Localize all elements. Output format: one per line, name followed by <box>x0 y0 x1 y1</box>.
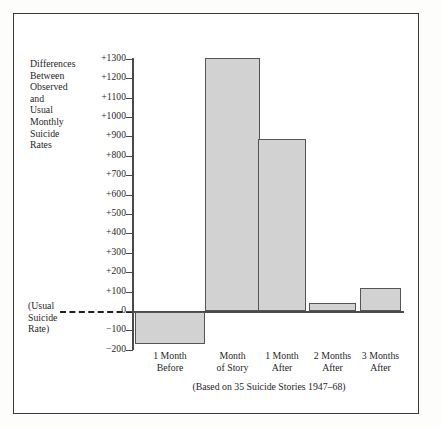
bar <box>135 312 205 344</box>
y-axis-tick-label-text: +1300 <box>72 53 126 63</box>
x-axis-category-label-line: After <box>346 362 416 374</box>
y-axis-tick <box>126 292 133 293</box>
y-axis-tick <box>126 311 133 312</box>
y-axis-tick-label-text: +500 <box>72 208 126 218</box>
bar <box>205 58 260 311</box>
y-axis-tick-label-text: +200 <box>72 266 126 276</box>
y-axis-tick <box>126 272 133 273</box>
y-axis-tick <box>126 98 133 99</box>
baseline-label-line: Suicide <box>28 312 70 324</box>
y-axis-tick-label-text: +100 <box>72 286 126 296</box>
y-axis-tick-label: 0 <box>68 305 126 317</box>
y-axis-tick-label: +100 <box>68 286 126 298</box>
y-axis-tick-label: +400 <box>68 227 126 239</box>
y-axis-tick-label-text: +1100 <box>72 92 126 102</box>
y-axis-tick-label: +300 <box>68 247 126 259</box>
y-axis-tick <box>126 59 133 60</box>
y-axis-tick-label-text: +600 <box>72 189 126 199</box>
y-axis-tick-label: −100 <box>68 324 126 336</box>
y-axis-tick <box>126 253 133 254</box>
y-axis-tick-label-text: +700 <box>72 169 126 179</box>
y-axis-tick <box>126 175 133 176</box>
y-axis-tick-label: +600 <box>68 189 126 201</box>
y-axis-tick-label: +500 <box>68 208 126 220</box>
y-axis-tick-label-text: 0 <box>72 305 126 315</box>
x-axis-category-label: 3 MonthsAfter <box>346 350 416 374</box>
y-axis-tick <box>126 214 133 215</box>
x-axis-category-label: 1 MonthBefore <box>135 350 205 374</box>
y-axis-tick-label-text: +800 <box>72 150 126 160</box>
baseline-label-line: Rate) <box>28 323 70 335</box>
y-axis-tick <box>126 156 133 157</box>
bar <box>258 139 306 312</box>
y-axis-tick-label-text: +1200 <box>72 72 126 82</box>
y-axis-tick <box>126 195 133 196</box>
y-axis-tick <box>126 117 133 118</box>
x-axis-category-label-line: Before <box>135 362 205 374</box>
y-axis-tick-label: +1200 <box>68 72 126 84</box>
y-axis-tick-label-text: +1000 <box>72 111 126 121</box>
bar <box>360 288 401 311</box>
y-axis-tick-label-text: +300 <box>72 247 126 257</box>
y-axis-tick-label: +1000 <box>68 111 126 123</box>
y-axis-tick-label: −200 <box>68 344 126 356</box>
figure-root: Differences Between Observed and Usual M… <box>0 0 441 428</box>
y-axis-tick-label: +1100 <box>68 92 126 104</box>
baseline-label: (Usual Suicide Rate) <box>28 300 70 335</box>
chart-plot-area: Differences Between Observed and Usual M… <box>0 0 441 428</box>
y-axis-tick-label-text: −100 <box>72 324 126 334</box>
y-axis-tick <box>126 136 133 137</box>
bar <box>309 303 356 312</box>
y-axis-tick-label: +200 <box>68 266 126 278</box>
y-axis-tick-label-text: +400 <box>72 227 126 237</box>
y-axis-tick-label: +700 <box>68 169 126 181</box>
figure-caption: (Based on 35 Suicide Stories 1947–68) <box>133 381 405 392</box>
x-axis-category-label-line: 3 Months <box>346 350 416 362</box>
y-axis-tick <box>126 233 133 234</box>
x-axis-category-label-line: 1 Month <box>135 350 205 362</box>
y-axis-tick <box>126 330 133 331</box>
y-axis-tick <box>126 78 133 79</box>
y-axis-tick-label-text: +900 <box>72 130 126 140</box>
y-axis-tick-label: +900 <box>68 130 126 142</box>
y-axis-line <box>132 58 134 350</box>
y-axis-tick-label-text: −200 <box>72 344 126 354</box>
y-axis-tick-label: +800 <box>68 150 126 162</box>
y-axis-tick <box>126 350 133 351</box>
y-axis-tick-label: +1300 <box>68 53 126 65</box>
